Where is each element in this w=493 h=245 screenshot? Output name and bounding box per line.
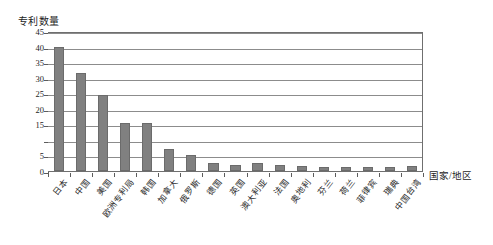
bar	[142, 123, 152, 171]
x-axis-category-label: 菲律宾	[355, 178, 379, 205]
y-axis-tick-label: 15	[22, 121, 44, 130]
x-axis-tick	[224, 173, 225, 177]
x-axis-tick	[423, 173, 424, 177]
y-axis-tick-label: 45	[22, 28, 44, 37]
x-axis-tick	[114, 173, 115, 177]
x-axis-category-label: 荷兰	[339, 178, 357, 198]
x-axis-tick	[313, 173, 314, 177]
bar	[341, 167, 351, 171]
bar-series	[48, 33, 422, 171]
bar	[54, 47, 64, 171]
y-axis-tick-label: 25	[22, 90, 44, 99]
bar	[319, 167, 329, 171]
bar	[275, 165, 285, 171]
x-axis-tick	[158, 173, 159, 177]
x-axis-category-label: 加拿大	[157, 178, 181, 205]
x-axis-category-label: 芬兰	[317, 178, 335, 198]
bar	[385, 167, 395, 171]
x-axis-category-label: 奥地利	[289, 178, 313, 205]
x-axis-ticks	[48, 173, 423, 177]
bar	[297, 166, 307, 171]
x-axis-title: 国家/地区	[429, 168, 472, 182]
bar	[164, 149, 174, 171]
x-axis-category-label: 俄罗斯	[179, 178, 203, 205]
y-axis-tick-label: 40	[22, 44, 44, 53]
x-axis-tick	[70, 173, 71, 177]
x-axis-category-label: 瑞典	[383, 178, 401, 198]
y-axis-tick-label: 35	[22, 59, 44, 68]
x-axis-tick	[401, 173, 402, 177]
x-axis-tick	[247, 173, 248, 177]
x-axis-category-label: 日本	[52, 178, 70, 198]
x-axis-tick	[357, 173, 358, 177]
y-axis-tick-label: 20	[22, 106, 44, 115]
bar	[208, 163, 218, 171]
y-axis-title: 专利数量	[18, 13, 59, 28]
y-axis-tick-label: 5	[22, 152, 44, 161]
bar	[76, 73, 86, 171]
x-axis-category-label: 美国	[96, 178, 114, 198]
y-axis-tick-label: 30	[22, 75, 44, 84]
bar	[363, 167, 373, 171]
bar	[230, 165, 240, 171]
bar	[120, 123, 130, 171]
x-axis-category-label: 法国	[273, 178, 291, 198]
x-axis-tick	[48, 173, 49, 177]
x-axis-labels: 日本中国美国欧洲专利局韩国加拿大俄罗斯德国英国澳大利亚法国奥地利芬兰荷兰菲律宾瑞…	[48, 178, 423, 240]
bar	[407, 166, 417, 171]
x-axis-tick	[92, 173, 93, 177]
y-axis-labels: 0515202530354045	[20, 32, 44, 172]
x-axis-tick	[291, 173, 292, 177]
bar	[98, 95, 108, 171]
x-axis-category-label: 韩国	[140, 178, 158, 198]
x-axis-category-label: 英国	[228, 178, 246, 198]
bar	[252, 163, 262, 171]
x-axis-tick	[335, 173, 336, 177]
plot-area	[48, 32, 423, 172]
x-axis-category-label: 德国	[206, 178, 224, 198]
x-axis-category-label: 中国	[74, 178, 92, 198]
x-axis-tick	[136, 173, 137, 177]
y-axis-tick-label: 0	[22, 168, 44, 177]
x-axis-tick	[202, 173, 203, 177]
bar-chart: 专利数量 国家/地区 0515202530354045 日本中国美国欧洲专利局韩…	[0, 0, 493, 245]
bar	[186, 155, 196, 171]
x-axis-tick	[379, 173, 380, 177]
x-axis-tick	[269, 173, 270, 177]
x-axis-tick	[180, 173, 181, 177]
